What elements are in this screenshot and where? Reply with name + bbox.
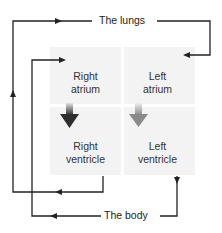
arrow-right-icon xyxy=(55,18,62,24)
lungs-label: The lungs xyxy=(96,14,148,27)
arrow-left-icon xyxy=(50,213,57,219)
right-ventricle-label: Right ventricle xyxy=(50,140,121,166)
arrow-up-icon xyxy=(10,90,16,97)
left-atrium-to-ventricle-arrow xyxy=(129,103,148,127)
right-atrium-to-ventricle-arrow xyxy=(60,103,79,128)
arrow-down-icon xyxy=(174,177,180,184)
arrow-right-icon xyxy=(59,57,66,63)
left-ventricle-label: Left ventricle xyxy=(122,140,193,166)
left-atrium-label: Left atrium xyxy=(122,70,193,96)
arrow-left-icon xyxy=(55,189,62,195)
arrow-left-icon xyxy=(183,52,190,58)
right-atrium-label: Right atrium xyxy=(50,70,121,96)
flow-lines xyxy=(0,0,222,233)
body-label: The body xyxy=(101,209,151,222)
